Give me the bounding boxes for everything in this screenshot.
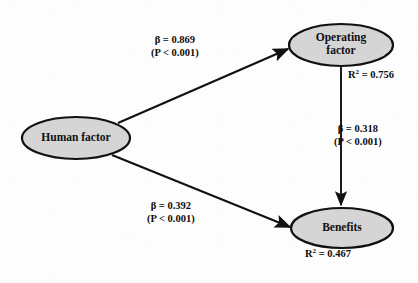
node-human-factor [22, 117, 130, 159]
edge-beta-human-to-benefits: β = 0.392 [147, 200, 195, 213]
edge-label-human-to-operating: β = 0.869 (P < 0.001) [151, 34, 199, 59]
r-squared-symbol: R [305, 248, 313, 259]
r-squared-symbol: R [348, 69, 356, 80]
node-benefits [291, 208, 393, 248]
edge-pvalue-human-to-operating: (P < 0.001) [151, 47, 199, 60]
edge-human-to-operating [118, 49, 288, 123]
r-squared-benefits: R2 = 0.467 [305, 248, 351, 261]
r-squared-value: = 0.467 [316, 248, 351, 259]
r-squared-operating-factor: R2 = 0.756 [348, 69, 394, 82]
path-diagram-figure: Human factor Operating factor Benefits β… [0, 0, 418, 283]
edge-pvalue-operating-to-benefits: (P < 0.001) [334, 136, 382, 149]
edge-beta-operating-to-benefits: β = 0.318 [334, 123, 382, 136]
edge-pvalue-human-to-benefits: (P < 0.001) [147, 213, 195, 226]
node-operating-factor [289, 24, 393, 66]
edge-human-to-benefits [112, 155, 290, 227]
edge-label-human-to-benefits: β = 0.392 (P < 0.001) [147, 200, 195, 225]
edge-label-operating-to-benefits: β = 0.318 (P < 0.001) [334, 123, 382, 148]
edge-beta-human-to-operating: β = 0.869 [151, 34, 199, 47]
r-squared-value: = 0.756 [359, 69, 394, 80]
